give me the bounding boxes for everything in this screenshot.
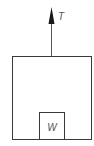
tension-arrowhead-icon xyxy=(49,7,55,24)
weight-label: W xyxy=(47,122,58,133)
tension-label: T xyxy=(58,11,65,22)
free-body-diagram: T W xyxy=(0,0,94,146)
